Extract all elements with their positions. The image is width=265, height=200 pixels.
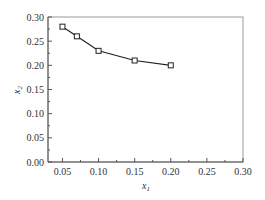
x-axis-label: x1 [141, 180, 150, 193]
x-tick-label: 0.30 [234, 166, 252, 177]
series-line [62, 27, 170, 66]
y-tick-label: 0.20 [27, 60, 45, 71]
y-axis-label: x2 [11, 86, 24, 95]
y-tick-label: 0.00 [27, 157, 45, 168]
square-marker-icon [74, 34, 79, 39]
square-marker-icon [96, 48, 101, 53]
y-tick-label: 0.15 [27, 84, 45, 95]
x-tick-label: 0.25 [198, 166, 216, 177]
x-tick-label: 0.20 [162, 166, 180, 177]
data-series [60, 24, 173, 68]
square-marker-icon [60, 24, 65, 29]
x-tick-label: 0.15 [126, 166, 144, 177]
y-tick-label: 0.25 [27, 36, 45, 47]
square-marker-icon [168, 63, 173, 68]
square-marker-icon [132, 58, 137, 63]
x-tick-label: 0.10 [90, 166, 108, 177]
y-tick-label: 0.10 [27, 108, 45, 119]
x-tick-label: 0.05 [54, 166, 72, 177]
y-tick-label: 0.30 [27, 12, 45, 23]
x-tick-labels: 0.050.100.150.200.250.30 [54, 166, 252, 177]
line-chart: 0.050.100.150.200.250.30 0.000.050.100.1… [0, 0, 265, 200]
y-tick-labels: 0.000.050.100.150.200.250.30 [27, 12, 45, 168]
y-tick-label: 0.05 [27, 132, 45, 143]
